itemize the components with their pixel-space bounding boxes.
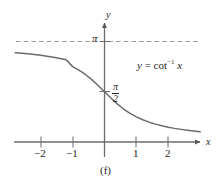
x-axis-label: x (206, 137, 210, 147)
x-tick-label-2: 2 (165, 148, 171, 159)
x-tick-label-1: 1 (133, 148, 139, 159)
plot-svg (0, 0, 217, 185)
pi-over-two-denominator: 2 (112, 93, 119, 105)
equation-exponent: −1 (167, 58, 174, 66)
equation-lhs: y (137, 59, 142, 71)
curve-equation-label: y = cot−1 x (137, 60, 182, 71)
equation-equals: = (145, 59, 151, 71)
equation-argument: x (177, 59, 182, 71)
x-tick-label--1: −1 (66, 148, 78, 159)
pi-over-two-numerator: π (112, 82, 119, 93)
y-axis-label: y (106, 10, 110, 20)
equation-function: cot (154, 59, 167, 71)
y-tick-label-pi-over-two: π 2 (112, 82, 119, 104)
figure-container: y x π π 2 −2 −1 1 2 y = cot−1 x (f) (0, 0, 217, 185)
figure-caption: (f) (100, 165, 111, 176)
y-tick-label-pi: π (92, 33, 98, 44)
x-tick-label--2: −2 (34, 148, 46, 159)
